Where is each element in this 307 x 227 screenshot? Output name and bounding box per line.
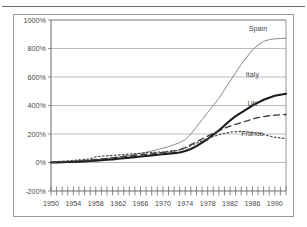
x-tick-label-1974: 1974 [177,199,193,208]
top-divider-rule [2,6,305,7]
y-tick-label-0: 0% [36,158,47,167]
x-tick-label-1978: 1978 [200,199,216,208]
x-tick-label-1966: 1966 [133,199,149,208]
chart-figure-frame: -200%0%200%400%600%800%1000% 19501954195… [13,14,294,217]
x-tick-label-1954: 1954 [65,199,81,208]
x-tick-label-1990: 1990 [267,199,283,208]
x-tick-label-1958: 1958 [88,199,104,208]
x-tick-label-1950: 1950 [43,199,59,208]
x-tick-label-1986: 1986 [244,199,260,208]
y-tick-label-1000: 1000% [24,16,47,25]
y-tick-label--200: -200% [25,187,46,196]
series-label-uk: UK [247,99,257,108]
gridlines-group [51,20,286,163]
x-axis-tick-labels: 1950195419581962196619701974197819821986… [43,199,283,208]
y-tick-label-600: 600% [28,73,47,82]
y-tick-label-800: 800% [28,44,47,53]
series-label-italy: Italy [246,70,260,79]
x-tick-label-1970: 1970 [155,199,171,208]
y-tick-label-400: 400% [28,101,47,110]
x-tick-label-1962: 1962 [110,199,126,208]
series-label-france: France [241,129,263,138]
line-chart: -200%0%200%400%600%800%1000% 19501954195… [14,15,293,216]
series-label-spain: Spain [249,24,267,33]
series-line-uk [51,114,286,162]
y-axis-tick-labels: -200%0%200%400%600%800%1000% [24,16,47,196]
y-tick-label-200: 200% [28,130,47,139]
x-tick-label-1982: 1982 [222,199,238,208]
